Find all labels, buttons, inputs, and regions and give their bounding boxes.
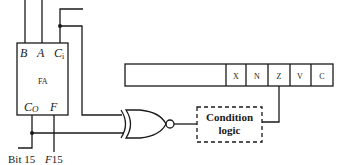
label-ci: Ci xyxy=(54,46,65,61)
flag-n: N xyxy=(254,72,260,81)
label-f15: F15 xyxy=(44,153,63,165)
wire-ci-to-gate xyxy=(60,26,122,115)
circuit-diagram: B A Ci FA CO F Bit 15 F15 X N Z V C Cond… xyxy=(0,0,344,165)
label-f: F xyxy=(49,100,58,114)
label-fa: FA xyxy=(38,77,48,86)
flag-z: Z xyxy=(277,72,282,81)
junction-dot xyxy=(58,24,62,28)
wire-co xyxy=(18,115,32,148)
flag-c: C xyxy=(319,72,324,81)
label-b: B xyxy=(20,46,28,60)
flag-x: X xyxy=(233,72,239,81)
label-co: CO xyxy=(24,100,39,114)
flag-v: V xyxy=(297,72,303,81)
wire-z-flag xyxy=(262,86,279,122)
condition-logic-line1: Condition xyxy=(206,111,253,123)
xnor-gate-icon xyxy=(121,110,174,138)
condition-logic-line2: logic xyxy=(219,124,241,136)
junction-dot xyxy=(30,131,34,135)
label-bit15: Bit 15 xyxy=(8,153,36,165)
label-a: A xyxy=(36,46,45,60)
